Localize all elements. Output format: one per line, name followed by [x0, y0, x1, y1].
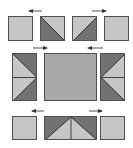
- middle-row: [13, 48, 126, 101]
- bottom-row: [13, 111, 125, 140]
- plain-square: [105, 17, 129, 41]
- center-square: [45, 54, 97, 101]
- plain-square: [13, 117, 37, 140]
- half-square-triangle: [41, 17, 66, 42]
- diagram-canvas: [0, 0, 133, 148]
- half-square-triangle: [73, 17, 98, 42]
- plain-square: [9, 17, 33, 41]
- flying-geese-pair: [101, 54, 126, 102]
- quilt-diagram: Quilt block construction diagram: [0, 0, 133, 148]
- flying-geese-pair: [45, 117, 98, 141]
- flying-geese-pair: [13, 54, 38, 102]
- plain-square: [101, 117, 125, 140]
- top-row: [9, 11, 129, 41]
